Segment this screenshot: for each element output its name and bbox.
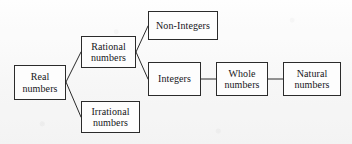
node-natural-numbers: Natural numbers	[283, 62, 341, 96]
node-irrational-numbers-line1: Irrational	[91, 106, 129, 118]
node-non-integers-line1: Non-Integers	[156, 20, 210, 32]
node-real-numbers: Real numbers	[14, 65, 66, 100]
node-natural-numbers-line2: numbers	[294, 79, 329, 91]
connector-rational-to-integers	[136, 52, 148, 79]
connector-real-to-rational	[66, 52, 81, 82]
node-natural-numbers-line1: Natural	[297, 68, 328, 80]
node-rational-numbers: Rational numbers	[81, 36, 136, 68]
node-whole-numbers: Whole numbers	[216, 62, 268, 96]
number-classification-diagram: Real numbers Rational numbers Irrational…	[0, 0, 352, 144]
node-real-numbers-line2: numbers	[22, 83, 57, 95]
node-integers-line1: Integers	[158, 73, 191, 85]
node-integers: Integers	[148, 62, 201, 96]
node-irrational-numbers: Irrational numbers	[81, 101, 140, 133]
node-non-integers: Non-Integers	[148, 11, 218, 40]
node-irrational-numbers-line2: numbers	[93, 117, 128, 129]
connector-real-to-irrational	[66, 82, 81, 117]
node-whole-numbers-line1: Whole	[228, 68, 255, 80]
connector-rational-to-nonintegers	[136, 26, 148, 52]
node-real-numbers-line1: Real	[31, 71, 50, 83]
node-whole-numbers-line2: numbers	[224, 79, 259, 91]
node-rational-numbers-line1: Rational	[91, 41, 126, 53]
node-rational-numbers-line2: numbers	[91, 52, 126, 64]
